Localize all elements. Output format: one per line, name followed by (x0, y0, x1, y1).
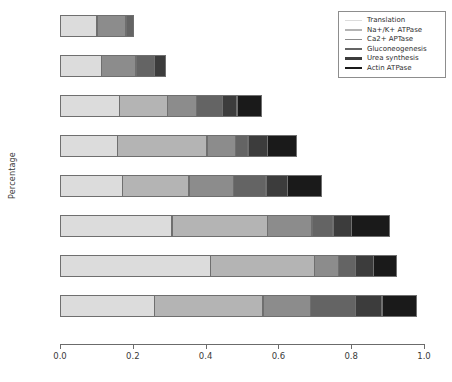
bar-segment (101, 55, 136, 77)
legend-item[interactable]: Translation (342, 16, 442, 25)
bar-segment (119, 95, 167, 117)
x-axis-tick-label: 1.0 (404, 351, 444, 361)
legend-item[interactable]: Gluconeogenesis (342, 45, 442, 54)
legend-swatch-icon (345, 67, 362, 69)
legend-label: Na+/K+ ATPase (367, 26, 422, 35)
x-axis-tick (351, 344, 352, 349)
legend-label: Ca2+ APTase (367, 35, 413, 44)
bar-segment (126, 15, 134, 37)
bar-segment (97, 15, 127, 37)
bar-row (60, 175, 322, 197)
x-axis-tick (133, 344, 134, 349)
legend-label: Gluconeogenesis (367, 45, 427, 54)
bar-row (60, 55, 166, 77)
bar-row (60, 95, 262, 117)
bar-segment (189, 175, 234, 197)
bar-segment (263, 295, 311, 317)
bar-segment (60, 135, 118, 157)
bar-segment (122, 175, 189, 197)
bar-segment (210, 255, 314, 277)
bar-segment (287, 175, 322, 197)
bar-segment (233, 175, 266, 197)
bar-segment (196, 95, 223, 117)
bar-segment (60, 175, 123, 197)
bar-row (60, 295, 417, 317)
bar-segment (355, 295, 382, 317)
bar-segment (60, 15, 97, 37)
bar-segment (267, 135, 297, 157)
x-axis-tick-label: 0.8 (331, 351, 371, 361)
bar-segment (117, 135, 207, 157)
bar-segment (338, 255, 355, 277)
bar-segment (235, 135, 248, 157)
x-axis-line (60, 344, 424, 345)
bar-segment (237, 95, 262, 117)
x-axis-tick (206, 344, 207, 349)
bar-segment (382, 295, 417, 317)
x-axis-tick (60, 344, 61, 349)
legend-label: Actin ATPase (367, 64, 412, 73)
bar-segment (351, 215, 390, 237)
bar-segment (172, 215, 268, 237)
bar-segment (373, 255, 397, 277)
chart-legend: TranslationNa+/K+ ATPaseCa2+ APTaseGluco… (338, 11, 446, 78)
legend-swatch-icon (345, 48, 362, 50)
bar-segment (312, 215, 334, 237)
stacked-bar-chart: Percentage 0.00.20.40.60.81.0 Translatio… (0, 0, 452, 382)
bar-segment (267, 215, 312, 237)
bar-row (60, 135, 297, 157)
legend-label: Urea synthesis (367, 54, 419, 63)
legend-item[interactable]: Urea synthesis (342, 54, 442, 63)
legend-item[interactable]: Actin ATPase (342, 64, 442, 73)
bar-segment (60, 215, 172, 237)
x-axis-tick (424, 344, 425, 349)
bar-segment (60, 255, 211, 277)
bar-segment (154, 295, 263, 317)
legend-label: Translation (367, 16, 405, 25)
bar-segment (167, 95, 197, 117)
bar-row (60, 15, 134, 37)
legend-swatch-icon (345, 20, 362, 21)
bar-segment (154, 55, 166, 77)
legend-swatch-icon (345, 29, 362, 30)
bar-row (60, 255, 397, 277)
bar-segment (136, 55, 155, 77)
bar-segment (248, 135, 268, 157)
x-axis-tick-label: 0.2 (113, 351, 153, 361)
y-axis-label: Percentage (8, 136, 17, 216)
legend-swatch-icon (345, 57, 362, 59)
bar-segment (60, 95, 120, 117)
x-axis-tick-label: 0.6 (258, 351, 298, 361)
bar-segment (355, 255, 374, 277)
x-axis-tick-label: 0.0 (40, 351, 80, 361)
x-axis-tick-label: 0.4 (186, 351, 226, 361)
bar-segment (222, 95, 237, 117)
legend-swatch-icon (345, 39, 362, 41)
bar-segment (207, 135, 236, 157)
x-axis-tick (278, 344, 279, 349)
bar-segment (333, 215, 352, 237)
bar-segment (310, 295, 356, 317)
legend-item[interactable]: Ca2+ APTase (342, 35, 442, 44)
bar-segment (314, 255, 339, 277)
bar-segment (60, 55, 102, 77)
bar-segment (60, 295, 155, 317)
bar-row (60, 215, 390, 237)
legend-item[interactable]: Na+/K+ ATPase (342, 26, 442, 35)
bar-segment (266, 175, 288, 197)
